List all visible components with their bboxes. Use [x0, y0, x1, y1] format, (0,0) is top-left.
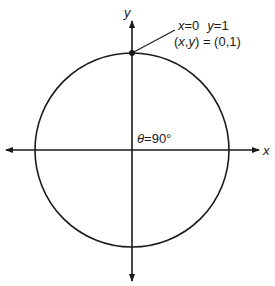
- point-x-value: =0: [185, 18, 200, 33]
- pair-value: ) = (0,1): [195, 34, 241, 49]
- angle-value: =90°: [144, 131, 171, 146]
- x-axis-label: x: [262, 143, 270, 158]
- y-axis-label: y: [123, 5, 132, 20]
- point-coords-label: x=0y=1: [177, 18, 229, 33]
- point-leader-line: [132, 30, 175, 53]
- unit-circle-diagram: y x x=0y=1 (x,y) = (0,1) θ=90°: [0, 0, 275, 286]
- point-y-value: =1: [214, 18, 229, 33]
- angle-label: θ=90°: [137, 131, 171, 146]
- point-pair-label: (x,y) = (0,1): [174, 34, 241, 49]
- theta-symbol: θ: [137, 131, 144, 146]
